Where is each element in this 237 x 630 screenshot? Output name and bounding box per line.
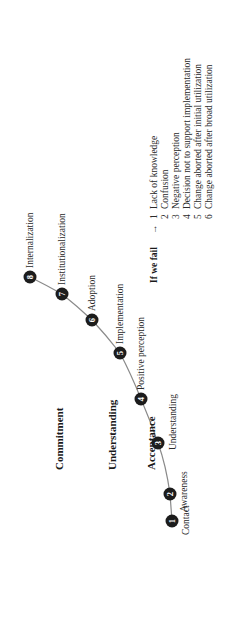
- level-label-commitment: Commitment: [53, 407, 65, 470]
- failure-item-negative-perception: Negative perception: [171, 132, 181, 209]
- failure-item-aborted-initial: Change aborted after initial utilization: [193, 64, 203, 209]
- failure-item-lack-of-knowledge: Lack of knowledge: [149, 136, 159, 209]
- failure-item-number: 5: [193, 214, 203, 219]
- stage-label-positive-perception: Positive perception: [136, 317, 146, 390]
- level-label-understanding: Understanding: [106, 399, 118, 470]
- failure-heading: If we fail: [149, 247, 159, 283]
- stage-label-adoption: Adoption: [87, 275, 97, 311]
- stage-label-institutionalization: Institutionalization: [57, 213, 67, 285]
- commitment-curve-diagram: Commitment Understanding Acceptance 1 Co…: [0, 0, 237, 630]
- diagram-rotated-group: Commitment Understanding Acceptance 1 Co…: [24, 58, 215, 535]
- failure-list: If we fail → 1 Lack of knowledge 2 Confu…: [149, 58, 214, 283]
- failure-item-decision-not-to-support: Decision not to support implementation: [182, 58, 192, 209]
- stage-node-6: 6 Adoption: [86, 275, 99, 327]
- failure-item-number: 6: [204, 214, 214, 219]
- failure-item-confusion: Confusion: [160, 169, 170, 209]
- arrow-right-icon: →: [149, 225, 159, 235]
- node-number: 6: [87, 318, 97, 322]
- failure-item-number: 4: [182, 214, 192, 219]
- node-number: 1: [167, 519, 177, 523]
- node-number: 5: [115, 351, 125, 355]
- failure-item-aborted-broad: Change aborted after broad utilization: [204, 64, 214, 209]
- node-number: 2: [165, 492, 175, 496]
- stage-label-awareness: Awareness: [179, 471, 189, 512]
- stage-label-understanding: Understanding: [168, 394, 178, 450]
- stage-label-implementation: Implementation: [115, 284, 125, 344]
- stage-node-8: 8 Internalization: [24, 212, 37, 283]
- stage-node-7: 7 Institutionalization: [56, 213, 69, 301]
- failure-item-number: 3: [171, 214, 181, 219]
- node-number: 3: [153, 441, 163, 445]
- stage-node-4: 4 Positive perception: [135, 317, 148, 406]
- failure-item-number: 1: [149, 214, 159, 219]
- stage-label-internalization: Internalization: [25, 212, 35, 268]
- progression-curve: [30, 277, 172, 521]
- failure-item-number: 2: [160, 214, 170, 219]
- node-number: 8: [25, 275, 35, 279]
